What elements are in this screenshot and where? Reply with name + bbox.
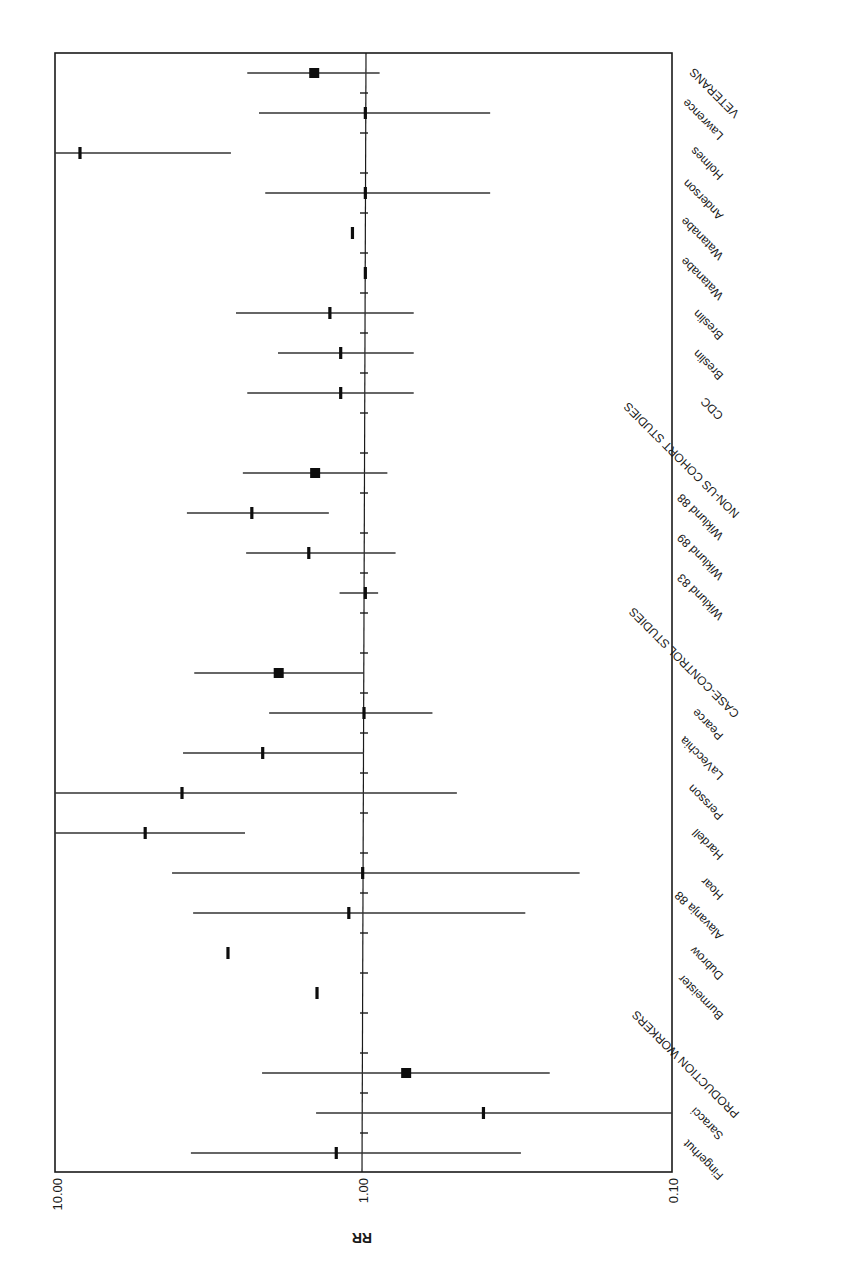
study-row [236,307,414,319]
group-label: CASE-CONTROL STUDIES [626,605,742,721]
study-row [247,387,413,399]
study-row [226,947,229,959]
study-label: Breslin [690,347,726,383]
point-estimate [361,867,364,879]
summary-row [194,668,364,678]
point-estimate [335,1147,338,1159]
study-row [183,747,364,759]
study-row [278,347,414,359]
study-row [172,867,580,879]
group-label: PRODUCTION WORKERS [629,1008,742,1121]
x-tick-label-1: 1.00 [356,1178,371,1203]
study-row [55,827,245,839]
study-labels: VETERANSLawrenceHolmesAndersonWatanabeWa… [621,65,742,1183]
summary-estimate-square [274,668,284,678]
point-estimate [351,227,354,239]
point-estimate [364,587,367,599]
point-estimate [364,107,367,119]
point-estimate [315,987,318,999]
study-label: Holmes [687,144,726,183]
study-row [364,267,367,279]
point-estimate [364,187,367,199]
point-estimate [362,707,365,719]
summary-estimate-square [401,1068,411,1078]
study-row [351,227,354,239]
x-tick-label-0-1: 0.10 [666,1178,681,1203]
point-estimate [339,347,342,359]
point-estimate [347,907,350,919]
x-axis-title: RR [352,1230,372,1246]
study-row [269,707,432,719]
point-estimate [250,507,253,519]
study-row [259,107,490,119]
study-label: Hardell [689,826,726,863]
point-estimate [78,147,81,159]
study-row [316,1107,672,1119]
point-estimate [328,307,331,319]
study-row [191,1147,521,1159]
point-estimate [180,787,183,799]
summary-row [243,468,388,478]
x-axis: 10.00 1.00 0.10 RR [50,1178,681,1246]
point-estimate [261,747,264,759]
study-label: Watanabe [678,254,726,302]
study-label: Dubrow [687,943,726,982]
study-label: Persson [685,782,726,823]
study-row [187,507,329,519]
study-row [315,987,318,999]
point-estimate [307,547,310,559]
summary-row [262,1068,550,1078]
summary-row [247,68,379,78]
study-row [340,587,379,599]
point-estimate [226,947,229,959]
point-estimate [364,267,367,279]
x-tick-label-10: 10.00 [50,1178,65,1211]
study-label: Breslin [690,307,726,343]
study-label: Pearce [689,706,726,743]
study-label: Watanabe [678,214,726,262]
study-row [265,187,490,199]
study-row [193,907,525,919]
study-label: CDC [698,394,727,423]
study-label: Fingerhut [680,1137,726,1183]
point-estimate [144,827,147,839]
study-row [55,787,457,799]
row-ticks [360,93,368,1133]
point-estimate [339,387,342,399]
summary-estimate-square [309,68,319,78]
study-row [246,547,395,559]
study-label: Hoar [698,874,726,902]
point-estimate [482,1107,485,1119]
summary-estimate-square [310,468,320,478]
study-row [55,147,231,159]
forest-plot: VETERANSLawrenceHolmesAndersonWatanabeWa… [0,0,867,1283]
